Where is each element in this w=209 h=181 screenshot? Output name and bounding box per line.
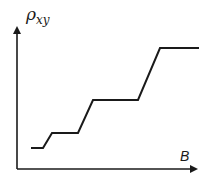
- rho-xy-curve: [31, 48, 199, 148]
- y-axis-label: ρ: [25, 4, 36, 24]
- x-axis-label: B: [180, 148, 189, 164]
- y-axis-label-subscript: xy: [36, 13, 50, 27]
- hall-plateau-diagram: ρ xy B: [0, 0, 209, 181]
